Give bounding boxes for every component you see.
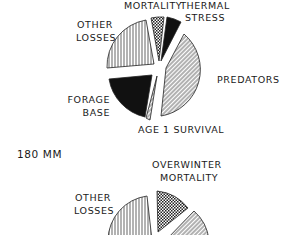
label-other-bottom-2: LOSSES <box>74 205 114 217</box>
pie-charts <box>0 0 282 235</box>
label-mortality: MORTALITY <box>124 0 182 12</box>
label-forage-1: FORAGE <box>60 94 110 106</box>
label-overwinter-2: MORTALITY <box>160 172 218 184</box>
slice-forage-base <box>109 75 152 117</box>
label-thermal-1: THERMAL <box>180 0 230 12</box>
label-180mm: 180 MM <box>17 148 62 160</box>
label-overwinter-1: OVERWINTER <box>152 159 222 171</box>
label-other-2: LOSSES <box>76 32 116 44</box>
label-forage-2: BASE <box>60 107 110 119</box>
label-other-bottom-1: OTHER <box>75 192 111 204</box>
label-age1-survival: AGE 1 SURVIVAL <box>138 124 224 136</box>
label-other-1: OTHER <box>77 19 113 31</box>
label-thermal-2: STRESS <box>180 12 230 24</box>
label-predators: PREDATORS <box>217 74 280 86</box>
top-pie <box>107 17 200 120</box>
slice-other-losses-bottom <box>108 196 152 235</box>
bottom-pie <box>108 191 209 235</box>
slice-other-losses <box>107 20 154 68</box>
